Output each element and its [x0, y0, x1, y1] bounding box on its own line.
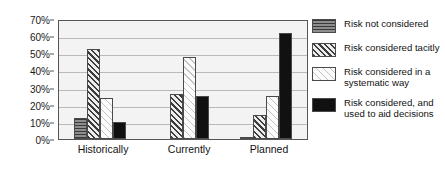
y-axis-tick-mark: [50, 20, 54, 21]
legend-item-label: Risk considered, and used to aid decisio…: [344, 97, 445, 119]
y-axis-tick-label: 70%: [30, 15, 50, 26]
bar: [240, 137, 253, 139]
legend-item: Risk considered, and used to aid decisio…: [312, 97, 445, 119]
bar: [279, 33, 292, 139]
legend-item-label: Risk not considered: [344, 18, 428, 29]
y-axis-tick-mark: [50, 54, 54, 55]
y-axis-tick-mark: [50, 105, 54, 106]
legend-swatch-icon: [312, 98, 336, 112]
legend-item-label: Risk considered tacitly: [344, 42, 439, 53]
bar: [100, 98, 113, 139]
y-axis-tick-mark: [50, 88, 54, 89]
bar: [74, 118, 87, 139]
plot-area: [58, 20, 308, 140]
legend-item: Risk not considered: [312, 18, 445, 33]
y-axis-tick-label: 10%: [30, 117, 50, 128]
bars-layer: [59, 21, 307, 139]
bar-group: [74, 21, 126, 139]
legend-swatch-icon: [312, 67, 336, 81]
x-axis-label: Currently: [168, 143, 211, 155]
bar: [113, 122, 126, 139]
bar: [87, 49, 100, 139]
y-axis-tick-mark: [50, 71, 54, 72]
y-axis-tick-mark: [50, 122, 54, 123]
legend-swatch-icon: [312, 43, 336, 57]
bar: [170, 94, 183, 139]
y-axis-tick-label: 20%: [30, 100, 50, 111]
bar-group: [240, 21, 292, 139]
legend-swatch-icon: [312, 19, 336, 33]
y-axis-tick-mark: [50, 140, 54, 141]
y-axis-tick-mark: [50, 37, 54, 38]
x-axis-label: Historically: [78, 143, 129, 155]
chart-legend: Risk not consideredRisk considered tacit…: [312, 18, 445, 128]
x-axis-label: Planned: [250, 143, 289, 155]
x-axis: HistoricallyCurrentlyPlanned: [58, 143, 308, 163]
chart-container: 70%60%50%40%30%20%10%0% HistoricallyCurr…: [0, 0, 445, 176]
legend-item: Risk considered tacitly: [312, 42, 445, 57]
bar-group: [157, 21, 209, 139]
y-axis-tick-label: 60%: [30, 32, 50, 43]
legend-item: Risk considered in a systematic way: [312, 66, 445, 88]
legend-item-label: Risk considered in a systematic way: [344, 66, 445, 88]
y-axis-tick-label: 30%: [30, 83, 50, 94]
bar: [266, 96, 279, 139]
y-axis-tick-label: 50%: [30, 49, 50, 60]
y-axis: 70%60%50%40%30%20%10%0%: [0, 20, 54, 140]
bar: [253, 115, 266, 139]
bar: [196, 96, 209, 139]
bar: [183, 57, 196, 139]
y-axis-tick-label: 40%: [30, 66, 50, 77]
y-axis-tick-label: 0%: [36, 135, 50, 146]
